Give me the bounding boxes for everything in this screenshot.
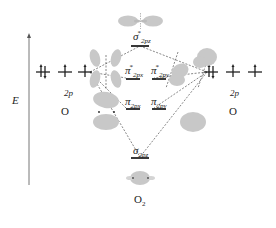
left-subshell-label: 2p [64, 89, 73, 98]
pi-2px-label: π2px [125, 96, 141, 110]
right-2p-levels [204, 64, 262, 79]
right-atom-label: O [229, 106, 237, 117]
energy-axis-label: E [12, 95, 19, 106]
sigma-2pz-label: σ2pz [133, 145, 148, 159]
right-subshell-label: 2p [230, 89, 239, 98]
molecule-label: O2 [134, 194, 145, 208]
pi-star-2px-label: π*2px [125, 64, 143, 79]
sigma-star-2pz-label: σ*2pz [133, 30, 151, 45]
mo-diagram: E 2p O 2p O σ*2pz π*2px π*2py π2px π2py … [0, 0, 276, 228]
pi-2py-label: π2py [151, 96, 167, 110]
pi-star-2py-label: π*2py [151, 64, 169, 79]
left-atom-label: O [61, 106, 69, 117]
left-2p-levels [36, 64, 92, 79]
energy-axis [27, 33, 31, 185]
